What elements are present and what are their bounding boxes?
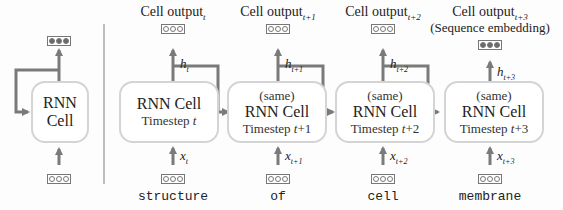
rnn-unrolled-diagram: RNN Cell Cell outputt ht RNN Cell Timest… [0, 0, 563, 210]
timestep-label: Timestep t+3 [460, 121, 529, 137]
hidden-state-label: ht [180, 56, 189, 74]
cell-name: RNN Cell [137, 95, 201, 113]
input-token: structure [138, 189, 208, 204]
panel-divider [103, 24, 105, 184]
cell-name: RNN Cell [245, 103, 309, 121]
input-vector-icon [161, 174, 185, 184]
input-vector-icon [266, 174, 290, 184]
rnn-cell-timestep: (same) RNN Cell Timestep t+3 [444, 81, 544, 143]
output-vector-icon [47, 36, 71, 46]
input-label: xt [180, 148, 188, 166]
same-label: (same) [259, 88, 294, 103]
input-label: xt+1 [285, 148, 302, 166]
output-vector-icon [266, 24, 290, 34]
rnn-cell-timestep: (same) RNN Cell Timestep t+1 [227, 81, 327, 143]
rnn-cell-folded: RNN Cell [31, 81, 89, 143]
cell-output-label: Cell outputt+1 [240, 4, 316, 22]
input-token: of [270, 189, 286, 204]
input-label: xt+2 [390, 148, 407, 166]
cell-name: RNN Cell [462, 103, 526, 121]
output-vector-icon [161, 24, 185, 34]
cell-output-label: Cell outputt+2 [345, 4, 421, 22]
input-token: cell [367, 189, 398, 204]
input-vector-icon [478, 174, 502, 184]
hidden-state-label: ht+3 [497, 64, 515, 82]
timestep-label: Timestep t+2 [351, 121, 420, 137]
same-label: (same) [476, 88, 511, 103]
input-vector-icon [371, 174, 395, 184]
input-token: membrane [459, 189, 521, 204]
hidden-state-label: ht+1 [285, 56, 303, 74]
sequence-embedding-vector-icon [478, 40, 502, 50]
output-vector-icon [371, 24, 395, 34]
sequence-embedding-label: (Sequence embedding) [430, 20, 549, 36]
cell-name: RNN Cell [353, 103, 417, 121]
cell-label-line2: Cell [47, 112, 74, 130]
rnn-cell-timestep: (same) RNN Cell Timestep t+2 [335, 81, 435, 143]
timestep-label: Timestep t+1 [243, 121, 312, 137]
same-label: (same) [367, 88, 402, 103]
input-label: xt+3 [497, 148, 514, 166]
input-vector-icon [47, 174, 71, 184]
rnn-cell-timestep: RNN Cell Timestep t [119, 81, 219, 143]
hidden-state-label: ht+2 [390, 56, 408, 74]
cell-label-line1: RNN [43, 94, 77, 112]
cell-output-label: Cell outputt [140, 4, 205, 22]
timestep-label: Timestep t [142, 113, 197, 129]
